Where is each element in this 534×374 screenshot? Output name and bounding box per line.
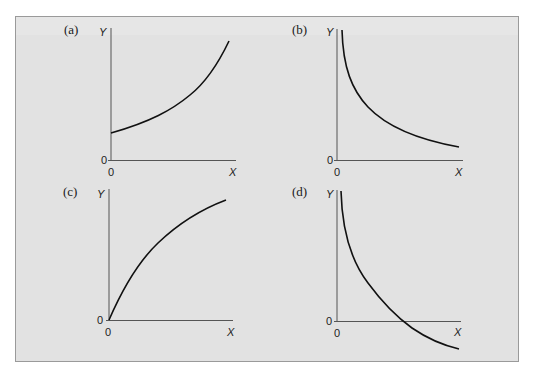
panel-d-x-axis-label: X bbox=[453, 326, 462, 338]
panel-a-y-axis-label: Y bbox=[99, 26, 107, 38]
panel-d-x-origin-label: 0 bbox=[334, 327, 340, 339]
panel-c-x-origin-label: 0 bbox=[105, 326, 111, 338]
panel-b-y-axis-label: Y bbox=[326, 26, 334, 38]
panel-c-x-axis-label: X bbox=[226, 326, 235, 338]
figure-frame bbox=[16, 17, 519, 362]
panel-d-y-axis-label: Y bbox=[326, 188, 334, 200]
panel-a-x-axis-label: X bbox=[228, 166, 237, 178]
panel-a-label: (a) bbox=[64, 22, 78, 37]
panel-b-x-origin-label: 0 bbox=[334, 166, 340, 178]
panel-b-y-origin-label: 0 bbox=[327, 154, 333, 166]
panel-a-y-origin-label: 0 bbox=[101, 154, 107, 166]
panel-d-y-origin-label: 0 bbox=[326, 315, 332, 327]
panel-c-y-origin-label: 0 bbox=[97, 314, 103, 326]
panel-c-label: (c) bbox=[63, 184, 77, 199]
frame-top-band bbox=[16, 17, 518, 35]
panel-b-label: (b) bbox=[292, 22, 307, 37]
panel-c-y-axis-label: Y bbox=[97, 188, 105, 200]
four-panel-curve-diagram: (a) Y X 0 0 (b) Y X 0 0 (c) Y X 0 0 bbox=[0, 0, 534, 374]
panel-b-x-axis-label: X bbox=[454, 166, 463, 178]
panel-d-label: (d) bbox=[292, 184, 307, 199]
panel-a-x-origin-label: 0 bbox=[108, 166, 114, 178]
